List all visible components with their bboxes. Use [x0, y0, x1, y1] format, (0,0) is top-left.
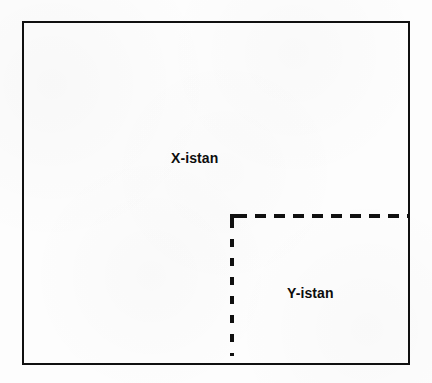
region-label-y-istan: Y-istan — [287, 286, 334, 300]
dashed-boundary-vertical — [230, 220, 234, 356]
diagram-canvas: X-istan Y-istan — [0, 0, 432, 383]
dashed-boundary-corner-joint — [230, 214, 239, 224]
dashed-boundary-horizontal — [236, 214, 410, 218]
region-label-x-istan: X-istan — [171, 151, 218, 165]
outer-region-x-istan — [22, 21, 410, 365]
